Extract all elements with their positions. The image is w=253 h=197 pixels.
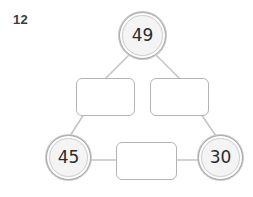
node-circle-left: 45 (46, 135, 91, 180)
edge-top-to-upper-right (155, 54, 179, 78)
node-circle-top: 49 (119, 12, 166, 59)
worksheet-canvas: 12 49 45 30 (0, 0, 253, 197)
blank-box-bottom[interactable] (116, 142, 177, 180)
node-circle-right: 30 (198, 135, 243, 180)
node-value-top: 49 (132, 27, 154, 44)
node-value-left: 45 (58, 149, 80, 166)
edge-top-to-upper-left (106, 54, 130, 78)
node-value-right: 30 (210, 149, 232, 166)
blank-box-upper-right[interactable] (150, 78, 209, 116)
blank-box-upper-left[interactable] (76, 78, 135, 116)
